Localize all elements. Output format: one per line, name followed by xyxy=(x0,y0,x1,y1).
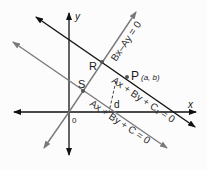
point-s-label: S xyxy=(78,78,85,90)
line-through-p xyxy=(36,17,110,68)
point-p-coords: (a, b) xyxy=(141,73,160,82)
x-axis-label: x xyxy=(187,99,194,110)
point-p-label: P xyxy=(131,69,139,83)
origin-label: 0 xyxy=(72,116,77,125)
distance-label: d xyxy=(114,99,120,110)
perpendicular-line xyxy=(44,112,69,148)
line-diagram: y x 0 R S P (a, b) d Bx–Ay = 0 Ax + By +… xyxy=(0,0,207,170)
point-r xyxy=(100,60,104,64)
y-axis-label: y xyxy=(74,11,81,22)
point-r-label: R xyxy=(89,60,97,72)
perpendicular-equation: Bx–Ay = 0 xyxy=(109,19,144,63)
point-p xyxy=(125,75,129,79)
